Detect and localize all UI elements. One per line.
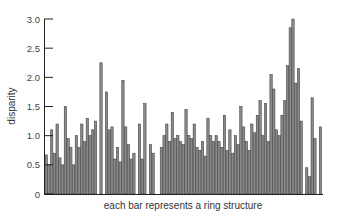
bar [64, 107, 66, 195]
bar [242, 127, 244, 194]
bar [240, 107, 242, 195]
bar [127, 144, 129, 194]
bar [168, 142, 170, 195]
y-tick-label: 1.0 [27, 130, 40, 141]
bar [75, 136, 77, 194]
bar [281, 115, 283, 194]
bar [201, 142, 203, 195]
y-tick-label: 0.5 [27, 159, 40, 170]
bar-chart: 00.51.01.52.02.53.0 disparity each bar r… [0, 0, 337, 217]
bar [152, 153, 154, 194]
bar [218, 142, 220, 195]
y-tick-label: 1.5 [27, 101, 40, 112]
bar [245, 142, 247, 195]
bar [308, 177, 310, 195]
bar [114, 159, 116, 194]
bar [190, 139, 192, 194]
bar [253, 133, 255, 194]
bar [237, 144, 239, 194]
bar [314, 139, 316, 194]
bar [267, 142, 269, 195]
bars-group [45, 19, 322, 194]
bar [163, 136, 165, 194]
bar [89, 136, 91, 194]
bar [270, 74, 272, 194]
bar [311, 98, 313, 194]
x-axis-title: each bar represents a ring structure [104, 200, 263, 211]
bar [61, 165, 63, 194]
bar [94, 121, 96, 194]
bar [81, 124, 83, 194]
bar [273, 89, 275, 194]
bar [166, 124, 168, 194]
bar [116, 147, 118, 194]
y-tick-label: 0 [35, 189, 40, 200]
bar [210, 136, 212, 194]
bar [264, 104, 266, 194]
bar [259, 101, 261, 194]
bar [130, 159, 132, 194]
bar [48, 165, 50, 194]
bar [226, 150, 228, 194]
bar [133, 153, 135, 194]
bar [141, 159, 143, 194]
bar [256, 115, 258, 194]
bar [45, 155, 47, 194]
bar [199, 150, 201, 194]
bar [59, 158, 61, 194]
bar [278, 136, 280, 194]
bar [289, 28, 291, 194]
bar [295, 83, 297, 194]
bar [105, 92, 107, 194]
y-tick-label: 3.0 [27, 14, 40, 25]
bar [232, 153, 234, 194]
bar [53, 153, 55, 194]
y-tick-label: 2.0 [27, 72, 40, 83]
bar [111, 127, 113, 194]
bar [72, 165, 74, 194]
bar [319, 127, 321, 194]
bar [234, 136, 236, 194]
bar [193, 124, 195, 194]
bar [221, 147, 223, 194]
bar [297, 69, 299, 194]
bar [138, 124, 140, 194]
bar [248, 150, 250, 194]
bar [262, 136, 264, 194]
y-axis-title: disparity [6, 87, 17, 124]
y-tick-label: 2.5 [27, 43, 40, 54]
bar [177, 136, 179, 194]
bar [284, 101, 286, 194]
bar [179, 142, 181, 195]
bar [86, 118, 88, 194]
bar [56, 124, 58, 194]
bar [292, 19, 294, 194]
bar [275, 130, 277, 194]
bar [185, 109, 187, 194]
bar [125, 127, 127, 194]
bar [70, 147, 72, 194]
bar [182, 144, 184, 194]
bar [188, 136, 190, 194]
bar [306, 168, 308, 194]
bar [92, 130, 94, 194]
bar [251, 124, 253, 194]
bar [300, 121, 302, 194]
bar [50, 130, 52, 194]
bar [119, 162, 121, 194]
bar [229, 130, 231, 194]
bar [83, 142, 85, 195]
bar [196, 147, 198, 194]
bar [174, 139, 176, 194]
bar [223, 115, 225, 194]
bar [286, 66, 288, 194]
bar [144, 104, 146, 194]
bar [100, 63, 102, 194]
bar [78, 147, 80, 194]
bar [207, 118, 209, 194]
bar [67, 139, 69, 194]
bar [212, 142, 214, 195]
bar [108, 130, 110, 194]
bar [204, 156, 206, 194]
bar [171, 112, 173, 194]
